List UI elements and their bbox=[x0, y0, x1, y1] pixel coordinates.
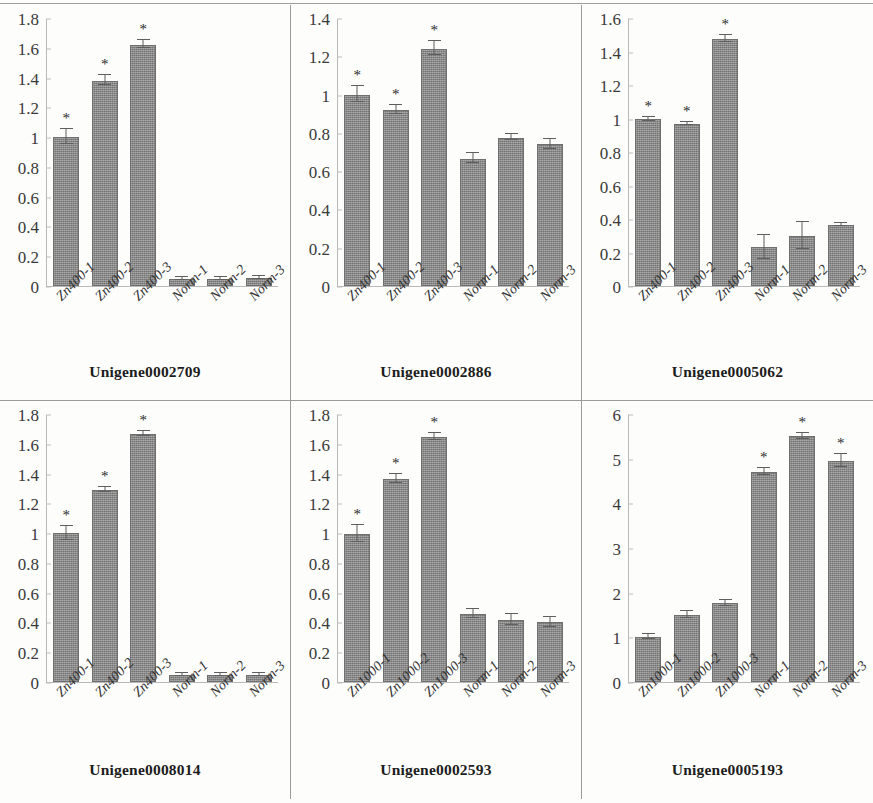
significance-marker: * bbox=[101, 57, 109, 72]
bar[interactable]: * bbox=[92, 81, 118, 286]
bar[interactable]: * bbox=[344, 534, 370, 682]
x-axis-label-slot: Zn400-1 bbox=[47, 685, 86, 751]
bar-series: *** bbox=[338, 415, 569, 682]
y-axis-tick-label: 1.8 bbox=[18, 11, 46, 28]
bar[interactable]: * bbox=[674, 124, 700, 286]
y-axis-tick-label: 1 bbox=[613, 630, 629, 647]
y-axis-tick-label: 1.6 bbox=[18, 436, 46, 453]
chart-panel-unigene0005062: 00.20.40.60.811.21.41.6***Zn400-1Zn400-2… bbox=[582, 5, 873, 401]
error-bar bbox=[763, 467, 764, 475]
bar-slot bbox=[783, 19, 821, 286]
significance-marker: * bbox=[354, 507, 362, 522]
error-bar bbox=[648, 633, 649, 639]
error-bar bbox=[66, 128, 67, 144]
x-axis-labels: Zn1000-1Zn1000-2Zn1000-3Norm-1Norm-2Norm… bbox=[629, 685, 861, 751]
y-axis-tick-label: 0.6 bbox=[18, 585, 46, 602]
x-axis-label-slot: Zn400-1 bbox=[629, 289, 668, 355]
error-bar bbox=[725, 34, 726, 41]
x-axis-label-slot: Norm-1 bbox=[454, 289, 493, 355]
y-axis-tick-label: 1.2 bbox=[309, 496, 337, 513]
bar-slot bbox=[163, 19, 201, 286]
bar[interactable]: * bbox=[53, 533, 79, 682]
bar[interactable]: * bbox=[383, 110, 409, 286]
x-axis-label-slot: Norm-1 bbox=[163, 289, 202, 355]
significance-marker: * bbox=[354, 68, 362, 83]
x-axis-label-slot: Zn1000-2 bbox=[377, 685, 416, 751]
y-axis-tick-label: 3 bbox=[613, 541, 629, 558]
y-axis-tick-label: 0 bbox=[31, 675, 47, 692]
x-axis-label-slot: Norm-3 bbox=[531, 289, 570, 355]
error-bar bbox=[472, 608, 473, 618]
error-bar bbox=[840, 222, 841, 226]
bar[interactable]: * bbox=[421, 49, 447, 286]
y-axis-tick-label: 1 bbox=[613, 111, 629, 128]
bar[interactable] bbox=[537, 144, 563, 286]
chart-panel-unigene0008014: 00.20.40.60.811.21.41.61.8***Zn400-1Zn40… bbox=[0, 401, 291, 799]
x-axis-labels: Zn400-1Zn400-2Zn400-3Norm-1Norm-2Norm-3 bbox=[47, 685, 279, 751]
error-bar bbox=[143, 39, 144, 48]
chart-panel-unigene0002886: 00.20.40.60.811.21.4***Zn400-1Zn400-2Zn4… bbox=[291, 5, 582, 401]
bar[interactable]: * bbox=[130, 434, 156, 682]
x-axis-label-slot: Zn400-3 bbox=[124, 685, 163, 751]
panel-title: Unigene0005193 bbox=[582, 761, 873, 779]
error-bar bbox=[104, 74, 105, 84]
chart-panel-unigene0002593: 00.20.40.60.811.21.41.61.8***Zn1000-1Zn1… bbox=[291, 401, 582, 799]
panel-title: Unigene0002886 bbox=[291, 363, 581, 381]
x-axis-label-slot: Zn1000-2 bbox=[668, 685, 707, 751]
bar-slot: * bbox=[668, 19, 706, 286]
y-axis-tick-label: 1.6 bbox=[309, 436, 337, 453]
bar[interactable]: * bbox=[789, 436, 815, 682]
error-bar bbox=[686, 610, 687, 618]
bar-slot bbox=[201, 415, 239, 682]
x-axis-label-slot: Zn1000-3 bbox=[415, 685, 454, 751]
bar[interactable]: * bbox=[828, 461, 854, 682]
y-axis-tick-label: 1 bbox=[31, 526, 47, 543]
y-axis-tick-label: 0.4 bbox=[309, 202, 337, 219]
plot-area: 00.20.40.60.811.21.41.6*** bbox=[628, 19, 860, 287]
x-axis-label-slot: Zn400-2 bbox=[668, 289, 707, 355]
y-axis-tick-mark bbox=[337, 287, 342, 288]
significance-marker: * bbox=[140, 413, 148, 428]
bar-slot bbox=[822, 19, 860, 286]
bar[interactable]: * bbox=[344, 95, 370, 286]
y-axis-tick-label: 0 bbox=[322, 675, 338, 692]
bar-series: *** bbox=[338, 19, 569, 286]
bar-slot: * bbox=[377, 19, 415, 286]
x-axis-label-slot: Norm-2 bbox=[783, 289, 822, 355]
bar-slot: * bbox=[415, 415, 453, 682]
x-axis-labels: Zn400-1Zn400-2Zn400-3Norm-1Norm-2Norm-3 bbox=[47, 289, 279, 355]
y-axis-tick-mark bbox=[628, 287, 633, 288]
bar-slot: * bbox=[124, 415, 162, 682]
figure-top-rule bbox=[0, 3, 873, 4]
bar[interactable]: * bbox=[92, 490, 118, 682]
y-axis-tick-label: 0.2 bbox=[18, 645, 46, 662]
x-axis-label-slot: Zn1000-1 bbox=[629, 685, 668, 751]
bar[interactable]: * bbox=[421, 437, 447, 682]
bar-slot: * bbox=[377, 415, 415, 682]
bar[interactable]: * bbox=[383, 479, 409, 682]
y-axis-tick-label: 0.6 bbox=[309, 164, 337, 181]
y-axis-tick-label: 1.2 bbox=[600, 78, 628, 95]
x-axis-label-slot: Zn400-2 bbox=[86, 685, 125, 751]
bar[interactable]: * bbox=[635, 119, 661, 286]
bar[interactable]: * bbox=[53, 137, 79, 286]
y-axis-tick-mark bbox=[46, 287, 51, 288]
bar[interactable]: * bbox=[130, 45, 156, 286]
panel-grid: 00.20.40.60.811.21.41.61.8***Zn400-1Zn40… bbox=[0, 5, 873, 803]
x-axis-label-slot: Norm-3 bbox=[240, 685, 279, 751]
plot-area: 00.20.40.60.811.21.4*** bbox=[337, 19, 569, 287]
x-axis-label-slot: Zn1000-3 bbox=[706, 685, 745, 751]
y-axis-tick-label: 1.4 bbox=[600, 44, 628, 61]
bar[interactable]: * bbox=[751, 472, 777, 682]
y-axis-tick-label: 0.4 bbox=[309, 615, 337, 632]
x-axis-label-slot: Norm-3 bbox=[531, 685, 570, 751]
bar[interactable]: * bbox=[712, 39, 738, 286]
bar[interactable] bbox=[498, 138, 524, 286]
y-axis-tick-label: 0.2 bbox=[18, 249, 46, 266]
significance-marker: * bbox=[140, 22, 148, 37]
x-axis-label-slot: Norm-3 bbox=[822, 289, 861, 355]
error-bar bbox=[840, 453, 841, 466]
y-axis-tick-label: 1.6 bbox=[600, 11, 628, 28]
y-axis-tick-label: 0.8 bbox=[600, 145, 628, 162]
plot-area: 00.20.40.60.811.21.41.61.8*** bbox=[46, 415, 278, 683]
